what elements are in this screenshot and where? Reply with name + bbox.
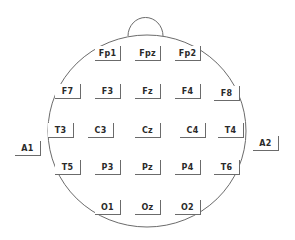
electrode-fp2[interactable]: Fp2 [175,46,201,61]
electrode-f4[interactable]: F4 [175,84,201,99]
electrode-p3[interactable]: P3 [95,160,121,175]
electrode-o1[interactable]: O1 [95,200,121,215]
electrode-c4[interactable]: C4 [180,123,206,138]
electrode-pz[interactable]: Pz [135,160,161,175]
electrode-f3[interactable]: F3 [95,84,121,99]
electrode-t3[interactable]: T3 [48,123,74,138]
electrode-a1[interactable]: A1 [15,141,41,156]
electrode-p4[interactable]: P4 [175,160,201,175]
electrode-f7[interactable]: F7 [55,84,81,99]
electrode-fpz[interactable]: Fpz [135,46,161,61]
electrode-fp1[interactable]: Fp1 [95,46,121,61]
electrode-oz[interactable]: Oz [135,200,161,215]
electrode-t6[interactable]: T6 [214,160,240,175]
electrode-c3[interactable]: C3 [88,123,114,138]
electrode-t5[interactable]: T5 [55,160,81,175]
electrode-o2[interactable]: O2 [175,200,201,215]
electrode-fz[interactable]: Fz [135,84,161,99]
electrode-t4[interactable]: T4 [218,123,244,138]
nose-outline [128,17,163,36]
electrode-f8[interactable]: F8 [214,86,240,101]
electrode-a2[interactable]: A2 [253,136,279,151]
electrode-cz[interactable]: Cz [135,123,161,138]
